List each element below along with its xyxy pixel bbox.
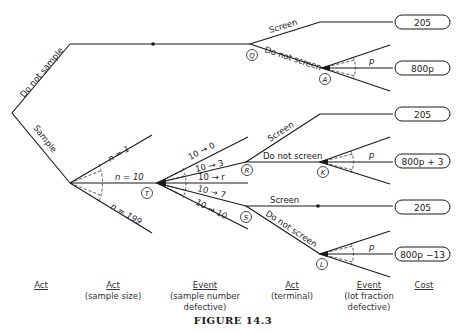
svg-text:800p: 800p bbox=[411, 64, 434, 74]
svg-text:A: A bbox=[322, 76, 328, 84]
svg-text:Q: Q bbox=[249, 52, 255, 60]
label-p-k: p bbox=[368, 150, 374, 160]
label-sample: Sample bbox=[31, 123, 59, 154]
column-label-act: Act bbox=[20, 280, 62, 291]
svg-text:800p + 3: 800p + 3 bbox=[402, 157, 444, 167]
label-screen-q: Screen bbox=[268, 17, 299, 35]
label-10-0: 10 → 0 bbox=[186, 140, 216, 162]
label-p-l: p bbox=[368, 242, 374, 252]
cost-box: 205 bbox=[395, 15, 450, 29]
label-do-not-sample: Do not sample bbox=[18, 45, 66, 99]
label-n1: n = 1 bbox=[106, 143, 131, 163]
figure-caption: FIGURE 14.3 bbox=[0, 315, 466, 326]
dot-marker bbox=[316, 204, 320, 208]
cost-box: 800p + 3 bbox=[395, 154, 450, 168]
label-p-a: p bbox=[368, 56, 374, 66]
column-label-terminal: Act (terminal) bbox=[258, 280, 326, 302]
svg-text:R: R bbox=[245, 167, 250, 175]
cost-box: 205 bbox=[395, 200, 450, 214]
label-screen-s: Screen bbox=[270, 195, 299, 205]
label-10-r: 10 → r bbox=[198, 172, 225, 182]
svg-text:T: T bbox=[145, 190, 150, 198]
label-do-not-screen-r: Do not screen bbox=[263, 151, 322, 161]
svg-text:205: 205 bbox=[414, 203, 431, 213]
cost-box: 205 bbox=[395, 107, 450, 121]
svg-text:205: 205 bbox=[414, 110, 431, 120]
label-n199: n = 199 bbox=[109, 201, 144, 227]
label-do-not-screen-q: Do not screen bbox=[263, 44, 323, 72]
column-label-sample-defective: Event (sample number defective) bbox=[160, 280, 250, 313]
svg-text:800p −13: 800p −13 bbox=[400, 250, 445, 260]
svg-text:205: 205 bbox=[414, 18, 431, 28]
svg-text:S: S bbox=[244, 214, 249, 222]
column-label-lot-fraction: Event (lot fraction defective) bbox=[334, 280, 404, 313]
svg-text:L: L bbox=[320, 261, 324, 269]
label-do-not-screen-s: Do not screen bbox=[264, 208, 319, 249]
column-label-cost: Cost bbox=[404, 280, 444, 291]
column-label-sample-size: Act (sample size) bbox=[78, 280, 148, 302]
label-n10: n = 10 bbox=[115, 172, 144, 182]
cost-box: 800p bbox=[395, 61, 450, 75]
dot-marker bbox=[151, 42, 155, 46]
cost-box: 800p −13 bbox=[395, 247, 450, 261]
